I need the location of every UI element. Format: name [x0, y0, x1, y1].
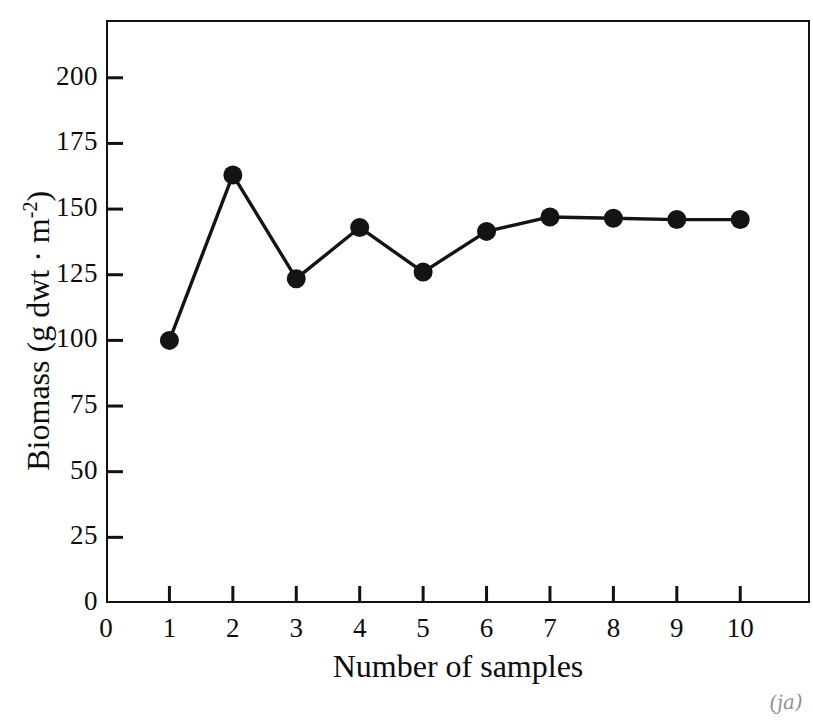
x-tick-label: 0 [76, 613, 136, 643]
x-axis-tick-labels: 012345678910 [0, 613, 813, 653]
x-tick-label: 2 [203, 613, 263, 643]
x-tick-label: 6 [457, 613, 517, 643]
x-tick-label: 5 [393, 613, 453, 643]
y-axis-ticks [106, 78, 123, 538]
y-axis-title: Biomass (g dwt · m-2) [13, 51, 55, 611]
data-point [223, 165, 242, 184]
data-point [350, 218, 369, 237]
x-tick-label: 10 [710, 613, 770, 643]
data-point [160, 331, 179, 350]
data-point [287, 269, 306, 288]
series-markers [160, 165, 750, 349]
y-axis-title-exponent: -2 [19, 202, 41, 219]
data-point [604, 209, 623, 228]
y-axis-title-close: ) [20, 191, 56, 202]
x-tick-label: 3 [266, 613, 326, 643]
x-axis-ticks [169, 586, 740, 603]
x-tick-label: 1 [139, 613, 199, 643]
figure-container: 0255075100125150175200 012345678910 Biom… [0, 0, 813, 720]
corner-annotation: (ja) [769, 689, 804, 715]
chart-canvas [0, 0, 813, 720]
x-tick-label: 9 [647, 613, 707, 643]
series-line [169, 175, 740, 340]
data-point [667, 210, 686, 229]
data-point [731, 210, 750, 229]
data-point [540, 207, 559, 226]
data-point [414, 263, 433, 282]
x-axis-title: Number of samples [106, 648, 810, 684]
x-tick-label: 4 [330, 613, 390, 643]
y-axis-title-main: Biomass (g dwt · m [20, 218, 56, 470]
x-tick-label: 7 [520, 613, 580, 643]
x-tick-label: 8 [583, 613, 643, 643]
data-point [477, 222, 496, 241]
